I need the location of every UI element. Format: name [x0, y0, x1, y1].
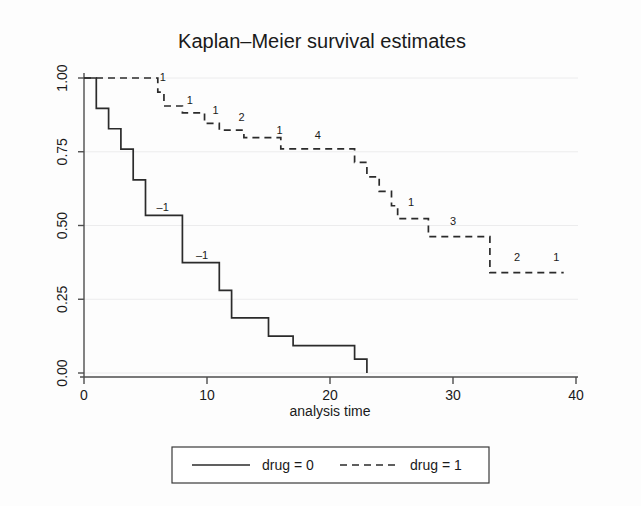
- x-axis-tick-labels: 010203040: [80, 387, 584, 403]
- y-tick-label-2: 0.50: [54, 212, 70, 239]
- censor-count-label: 1: [160, 71, 166, 83]
- censor-count-label: –1: [196, 249, 208, 261]
- x-axis-ticks: [84, 377, 576, 384]
- y-tick-label-4: 1.00: [54, 64, 70, 91]
- censor-count-label: 1: [213, 104, 219, 116]
- censor-count-label: 3: [450, 215, 456, 227]
- censor-count-label: 1: [553, 251, 559, 263]
- y-tick-label-3: 0.75: [54, 138, 70, 165]
- censor-count-label: 1: [187, 94, 193, 106]
- censor-count-label: 2: [514, 251, 520, 263]
- censor-count-label: 2: [238, 111, 244, 123]
- gridlines: [84, 78, 578, 373]
- x-tick-label-1: 10: [199, 387, 215, 403]
- censor-count-label: 4: [315, 129, 321, 141]
- legend-label-drug-1[interactable]: drug = 1: [410, 457, 462, 473]
- x-tick-label-2: 20: [322, 387, 338, 403]
- legend-label-drug-0[interactable]: drug = 0: [262, 457, 314, 473]
- y-tick-label-1: 0.25: [54, 285, 70, 312]
- y-tick-label-0: 0.00: [54, 359, 70, 386]
- censoring-labels: –1–11112141321: [157, 71, 560, 263]
- censor-count-label: 1: [277, 124, 283, 136]
- x-tick-label-0: 0: [80, 387, 88, 403]
- legend[interactable]: drug = 0 drug = 1: [172, 447, 489, 483]
- censor-count-label: –1: [157, 201, 169, 213]
- x-axis-title: analysis time: [290, 403, 371, 419]
- kaplan-meier-figure: Kaplan–Meier survival estimates 0.000.25…: [0, 0, 641, 506]
- y-axis-tick-labels: 0.000.250.500.751.00: [54, 64, 70, 386]
- survival-plot-svg: Kaplan–Meier survival estimates 0.000.25…: [0, 0, 641, 506]
- survival-curve-drug-1: [84, 78, 564, 273]
- x-tick-label-3: 30: [445, 387, 461, 403]
- y-axis-ticks: [78, 78, 84, 373]
- page-title: Kaplan–Meier survival estimates: [178, 30, 466, 52]
- x-tick-label-4: 40: [568, 387, 584, 403]
- censor-count-label: 1: [408, 196, 414, 208]
